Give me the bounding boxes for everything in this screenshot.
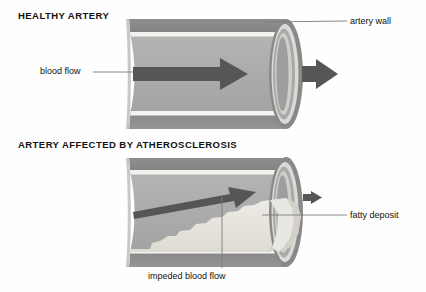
label-artery-wall: artery wall [350,16,391,26]
healthy-wall-bottom [129,116,286,130]
healthy-wall-top [129,19,286,32]
diseased-wall-top [129,158,286,170]
label-fatty-deposit: fatty deposit [350,210,399,220]
healthy-cut-edge [126,19,131,129]
artery-illustration [0,0,426,292]
label-impeded-blood-flow: impeded blood flow [148,271,226,281]
label-blood-flow: blood flow [40,66,81,76]
diseased-wall-bottom [129,254,286,268]
diseased-cut-edge [126,158,131,267]
healthy-exit-arrow [302,59,338,89]
healthy-endcap-lumen-opening [277,37,289,111]
diseased-wall-top-highlight [130,170,286,175]
healthy-wall-top-highlight [130,32,286,37]
diseased-exit-arrow [303,191,322,204]
healthy-wall-bottom-highlight [130,111,286,116]
